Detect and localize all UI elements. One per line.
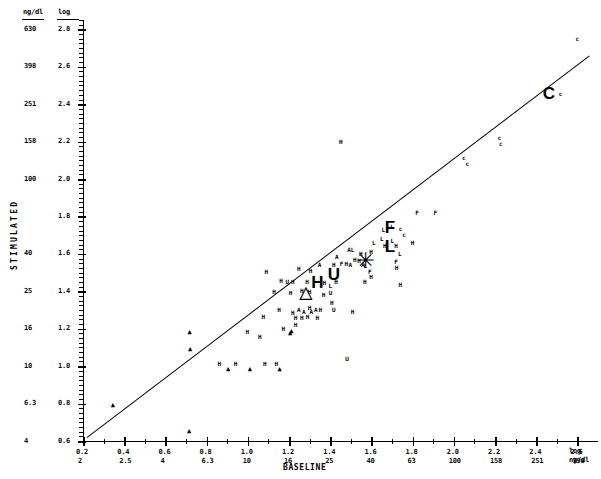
data-point-c: c: [576, 36, 580, 42]
scatter-plot-figure: ng/dl log 2.86302.63982.42512.21582.0100…: [0, 0, 601, 479]
y-tick-major: [78, 104, 86, 106]
y-tick-minor: [79, 357, 84, 358]
data-point-f: F: [415, 210, 419, 216]
x-tick-minor: [392, 439, 393, 444]
y-tick-minor: [79, 333, 84, 334]
y-tick-minor: [79, 263, 84, 264]
y-tick-minor: [79, 432, 84, 433]
data-point-u: U: [345, 356, 349, 362]
y-tick-label-log: 1.8: [58, 213, 70, 220]
y-tick-label-ngdl: 251: [24, 101, 36, 108]
x-tick-label-ngdl: 2.5: [119, 458, 131, 465]
data-point-l: L: [398, 251, 402, 257]
group-marker-star: ✳: [356, 250, 374, 272]
data-point-h: H: [265, 269, 269, 275]
x-tick-minor: [268, 439, 269, 444]
data-point-h: H: [218, 361, 222, 367]
y-tick-minor: [79, 361, 84, 362]
y-tick-minor: [79, 245, 84, 246]
data-point-h: H: [351, 309, 355, 315]
y-tick-label-log: 1.6: [58, 250, 70, 257]
y-tick-minor: [79, 259, 84, 260]
y-tick-label-log: 1.0: [58, 363, 70, 370]
x-tick-major: [536, 437, 538, 446]
y-tick-minor: [79, 20, 84, 21]
x-tick-label-ngdl: 4: [160, 458, 164, 465]
data-point-h: H: [272, 289, 276, 295]
x-tick-label-ngdl: 2: [78, 458, 82, 465]
data-point-h: H: [291, 279, 295, 285]
x-tick-major: [371, 437, 373, 446]
data-point-h: H: [318, 307, 322, 313]
y-tick-minor: [79, 422, 84, 423]
x-tick-minor: [557, 439, 558, 444]
y-tick-minor: [79, 123, 84, 124]
group-marker-c: C: [543, 84, 555, 101]
data-point-h: H: [306, 314, 310, 320]
y-tick-major: [78, 179, 86, 181]
x-axis-title: BASELINE: [283, 463, 326, 472]
data-point-h: H: [294, 322, 298, 328]
x-tick-major: [207, 437, 209, 446]
data-point-h: H: [395, 265, 399, 271]
data-point-l: L: [380, 236, 384, 242]
y-tick-major: [78, 404, 86, 406]
y-tick-major: [78, 142, 86, 144]
y-tick-label-log: 1.4: [58, 288, 70, 295]
y-tick-label-log: 2.4: [58, 101, 70, 108]
x-tick-minor: [310, 439, 311, 444]
y-tick-major: [78, 366, 86, 368]
y-tick-major: [78, 254, 86, 256]
y-tick-minor: [79, 418, 84, 419]
y-tick-minor: [79, 90, 84, 91]
x-tick-label-ngdl: 40: [366, 458, 374, 465]
data-point-h: H: [289, 290, 293, 296]
y-tick-label-ngdl: 16: [24, 325, 32, 332]
y-tick-minor: [79, 202, 84, 203]
data-point-triangle: ▲: [111, 401, 115, 408]
x-tick-major: [83, 437, 85, 446]
y-tick-minor: [79, 347, 84, 348]
data-point-a: A: [302, 309, 306, 315]
y-tick-minor: [79, 249, 84, 250]
y-tick-major: [78, 291, 86, 293]
x-tick-label-log: 1.8: [406, 449, 418, 456]
y-tick-major: [78, 29, 86, 31]
y-tick-minor: [79, 413, 84, 414]
y-tick-minor: [79, 390, 84, 391]
x-tick-major: [248, 437, 250, 446]
y-tick-label-ngdl: 398: [24, 63, 36, 70]
y-tick-label-log: 2.0: [58, 176, 70, 183]
y-tick-major: [78, 67, 86, 69]
y-tick-major: [78, 441, 86, 443]
data-point-a: A: [297, 307, 301, 313]
data-point-l: L: [328, 283, 332, 289]
y-tick-minor: [79, 226, 84, 227]
data-point-c: c: [465, 161, 469, 167]
x-tick-minor: [351, 439, 352, 444]
x-tick-label-ngdl: 25: [325, 458, 333, 465]
data-point-u: U: [286, 279, 290, 285]
y-tick-minor: [79, 188, 84, 189]
x-tick-minor: [516, 439, 517, 444]
group-marker-l: L: [385, 238, 395, 255]
group-marker-f: F: [385, 219, 395, 236]
x-tick-label-log: 1.4: [323, 449, 335, 456]
data-point-a: A: [314, 307, 318, 313]
y-tick-label-log: 2.2: [58, 138, 70, 145]
y-tick-minor: [79, 184, 84, 185]
y-tick-label-ngdl: 6.3: [24, 400, 36, 407]
y-tick-minor: [79, 301, 84, 302]
data-point-c: c: [499, 141, 503, 147]
y-tick-minor: [79, 282, 84, 283]
x-tick-label-log: 1.2: [282, 449, 294, 456]
data-point-h: H: [297, 266, 301, 272]
y-tick-minor: [79, 81, 84, 82]
y-header-rule-right: [57, 19, 79, 20]
y-tick-major: [78, 216, 86, 218]
data-point-l: L: [372, 240, 376, 246]
y-tick-label-ngdl: 25: [24, 288, 32, 295]
x-tick-minor: [145, 439, 146, 444]
data-point-h: H: [369, 274, 373, 280]
x-tick-minor: [186, 439, 187, 444]
